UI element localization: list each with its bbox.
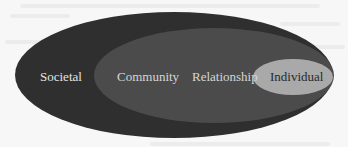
label-individual: Individual: [270, 69, 323, 85]
label-relationship: Relationship: [192, 69, 258, 85]
label-societal: Societal: [40, 69, 82, 85]
label-community: Community: [117, 69, 179, 85]
